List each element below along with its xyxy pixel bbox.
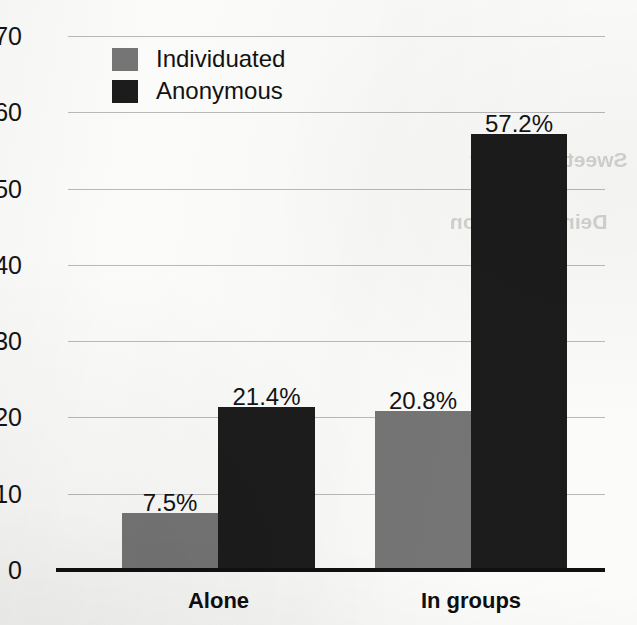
ytick-label-40: 40 <box>0 253 22 278</box>
gridline-70 <box>68 36 605 37</box>
x-axis-baseline <box>56 568 605 572</box>
bar-alone-anonymous[interactable] <box>218 407 315 570</box>
legend-swatch-anonymous-icon <box>112 80 138 103</box>
ytick-label-70: 70 <box>0 24 22 49</box>
bar-value-ingroups-individuated: 20.8% <box>375 389 471 413</box>
legend-item-individuated[interactable]: Individuated <box>112 44 285 74</box>
ytick-label-50: 50 <box>0 177 22 202</box>
plot-area: 70 60 50 40 30 20 10 0 7.5% 21.4% 20.8% … <box>68 36 605 570</box>
ytick-label-0: 0 <box>0 558 22 583</box>
bar-ingroups-anonymous[interactable] <box>471 134 567 570</box>
ytick-label-60: 60 <box>0 100 22 125</box>
legend-label-individuated: Individuated <box>156 47 285 71</box>
bar-value-ingroups-anonymous: 57.2% <box>471 112 567 136</box>
legend-label-anonymous: Anonymous <box>156 79 283 103</box>
bar-value-alone-anonymous: 21.4% <box>218 385 315 409</box>
bar-alone-individuated[interactable] <box>122 513 218 570</box>
bar-ingroups-individuated[interactable] <box>375 411 471 570</box>
cropped-chart-title: Aggression <box>0 0 637 14</box>
ytick-label-10: 10 <box>0 482 22 507</box>
chart-legend: Individuated Anonymous <box>112 44 285 108</box>
ytick-label-20: 20 <box>0 405 22 430</box>
category-label-in-groups: In groups <box>375 590 567 612</box>
ytick-label-30: 30 <box>0 329 22 354</box>
legend-swatch-individuated-icon <box>112 48 138 71</box>
category-label-alone: Alone <box>122 590 315 612</box>
bar-value-alone-individuated: 7.5% <box>122 491 218 515</box>
cropped-chart-title-text: Aggression <box>62 0 214 1</box>
bar-chart-figure: Aggression Sweet and Sour Deindividuatio… <box>0 0 637 625</box>
legend-item-anonymous[interactable]: Anonymous <box>112 76 285 106</box>
